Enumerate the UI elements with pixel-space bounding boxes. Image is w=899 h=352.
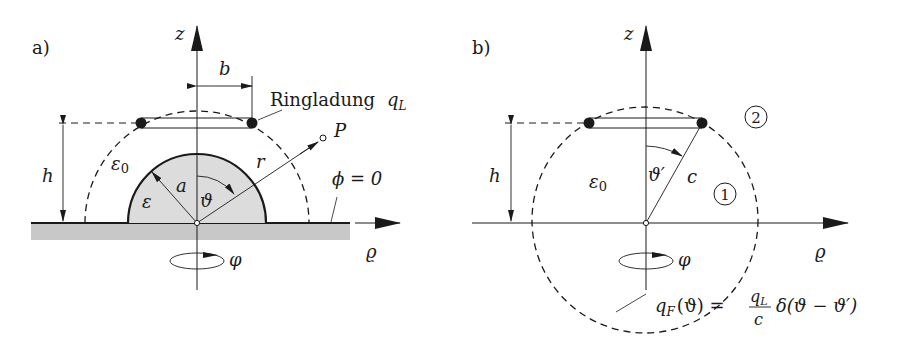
radius-r-label: r (256, 151, 266, 172)
formula-denominator: c (754, 310, 763, 329)
epsilon0-label-b: ε0 (589, 171, 607, 194)
point-P-marker (320, 135, 326, 141)
point-P-label: P (333, 120, 347, 141)
panel-a: a) z ϱ b Ringladung qL h (31, 23, 406, 290)
radius-r-arrow (300, 142, 318, 154)
region-1-label: 1 (720, 186, 730, 204)
ring-charge-right-b (697, 118, 708, 129)
rho-axis-label-b: ϱ (815, 241, 826, 262)
epsilon0-label: ε0 (111, 153, 129, 176)
panel-b-label: b) (472, 37, 491, 58)
region-2-label: 2 (751, 109, 761, 127)
rotation-arrowhead-b (652, 252, 667, 258)
origin-marker-b (643, 220, 648, 225)
ring-label-leader (258, 110, 282, 120)
formula-lhs: qF(ϑ) = (655, 295, 725, 319)
ring-charge-left-b (584, 118, 595, 129)
surface-charge-formula: qF(ϑ) = qL c δ(ϑ − ϑ′) (655, 287, 857, 329)
phi-zero-leader (331, 197, 337, 222)
panel-b: b) z ϱ h ε0 c ϑ′ 1 2 (472, 23, 857, 333)
b-label: b (219, 58, 231, 79)
rotation-phi-label: φ (229, 249, 242, 270)
boundary-condition-label: ϕ = 0 (332, 168, 382, 189)
formula-numerator: qL (750, 287, 768, 308)
epsilon-label: ε (142, 191, 152, 212)
z-axis-label: z (174, 23, 185, 44)
theta-label: ϑ (200, 190, 213, 211)
ring-charge-label: Ringladung qL (270, 89, 406, 113)
h-label: h (42, 165, 54, 186)
rotation-phi-label-b: φ (678, 249, 691, 270)
z-axis-label-b: z (623, 23, 634, 44)
theta-prime-arc (646, 146, 682, 156)
panel-a-label: a) (32, 37, 50, 58)
rotation-arrowhead (203, 252, 218, 258)
radius-a-label: a (176, 175, 187, 196)
radius-c-label: c (687, 166, 697, 187)
h-label-b: h (489, 165, 501, 186)
figure-canvas: a) z ϱ b Ringladung qL h (0, 0, 899, 352)
rho-axis-label: ϱ (366, 241, 377, 262)
formula-rhs: δ(ϑ − ϑ′) (776, 295, 857, 316)
ring-charge-left (136, 118, 147, 129)
ground-plane (31, 223, 350, 240)
formula-leader (616, 294, 646, 312)
theta-prime-label: ϑ′ (648, 164, 665, 185)
origin-marker (194, 220, 199, 225)
